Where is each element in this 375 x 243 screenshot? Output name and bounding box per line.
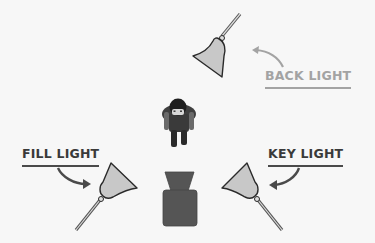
lighting-diagram [0, 0, 375, 243]
key-light-lamp-icon [222, 163, 282, 230]
fill-light-arrow-icon [58, 168, 91, 189]
back-light-arrow-icon [252, 46, 283, 67]
camera-icon [163, 172, 197, 226]
back-light-lamp-icon [193, 14, 240, 77]
fill-light-lamp-icon [76, 163, 137, 230]
key-light-arrow-icon [269, 168, 299, 190]
fill-light-label: FILL LIGHT [22, 146, 99, 167]
key-light-label: KEY LIGHT [268, 146, 343, 167]
subject-person-icon [162, 99, 196, 148]
back-light-label: BACK LIGHT [265, 68, 351, 89]
